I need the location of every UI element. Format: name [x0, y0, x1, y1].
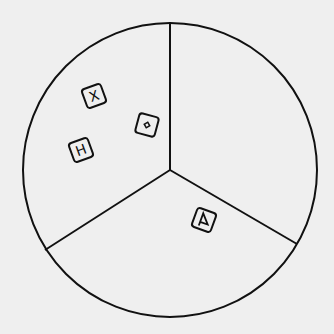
divider-lower-right	[170, 170, 297, 244]
diamond-icon	[144, 122, 149, 127]
three-sector-diagram: X H	[0, 0, 334, 334]
flag-glyph-icon	[199, 213, 211, 228]
tile-x-symbol: X	[87, 87, 102, 105]
tile-h-symbol: H	[73, 141, 88, 160]
tile-flag	[191, 207, 217, 233]
tile-diamond	[135, 113, 159, 137]
divider-lower-left	[45, 170, 170, 250]
tile-x: X	[81, 83, 107, 109]
tile-h: H	[68, 137, 94, 163]
